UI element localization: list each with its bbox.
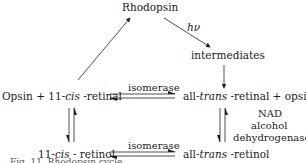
node-trans-retinol: all-trans -retinol — [183, 148, 269, 160]
figure-caption: Fig. 11. Rhodopsin cycle — [10, 157, 122, 163]
label-nad: NAD — [258, 108, 282, 120]
label-isomerase-bottom: isomerase — [128, 140, 180, 152]
label-light: hν — [187, 21, 200, 33]
label-isomerase-top: isomerase — [128, 82, 180, 94]
node-rhodopsin: Rhodopsin — [122, 1, 178, 13]
node-intermediates: intermediates — [191, 49, 265, 61]
node-opsin-cis-retinal: Opsin + 11-cis -retinal — [2, 90, 122, 102]
label-alcohol: alcohol — [251, 120, 287, 132]
node-trans-retinal-opsin: all-trans -retinal + opsin — [183, 90, 306, 102]
label-dehydrogenase: dehydrogenase — [233, 132, 306, 144]
arrow-to-rhodopsin — [78, 18, 130, 80]
